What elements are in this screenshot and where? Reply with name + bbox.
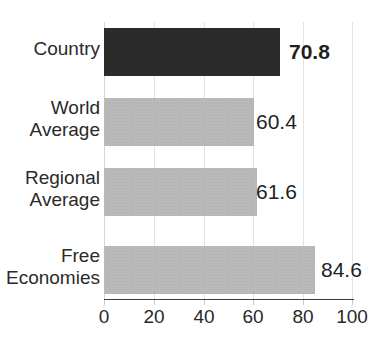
x-tick-label-80: 80 [292,306,313,328]
x-tick-label-100: 100 [336,306,368,328]
x-axis-line [104,299,354,300]
tick-mark-80 [303,300,304,305]
value-label-world-average: 60.4 [256,110,297,134]
tick-mark-100 [352,300,353,305]
tick-mark-20 [154,300,155,305]
tick-mark-60 [253,300,254,305]
category-label-free-economies: Free Economies [0,245,100,289]
value-label-free-economies: 84.6 [321,258,362,282]
bar-regional-average [104,168,257,216]
x-tick-label-60: 60 [242,306,263,328]
bar-chart: Country World Average Regional Average F… [0,0,389,356]
bar-free-economies [104,246,315,294]
category-label-world-average: World Average [0,97,100,141]
x-tick-label-0: 0 [99,306,110,328]
value-label-country: 70.8 [289,40,330,64]
value-label-regional-average: 61.6 [256,180,297,204]
category-label-regional-average: Regional Average [0,167,100,211]
bar-world-average [104,98,254,146]
bar-country [104,28,280,76]
x-tick-label-20: 20 [143,306,164,328]
tick-mark-40 [204,300,205,305]
category-label-country: Country [0,38,100,60]
tick-mark-0 [104,300,105,305]
x-tick-label-40: 40 [193,306,214,328]
